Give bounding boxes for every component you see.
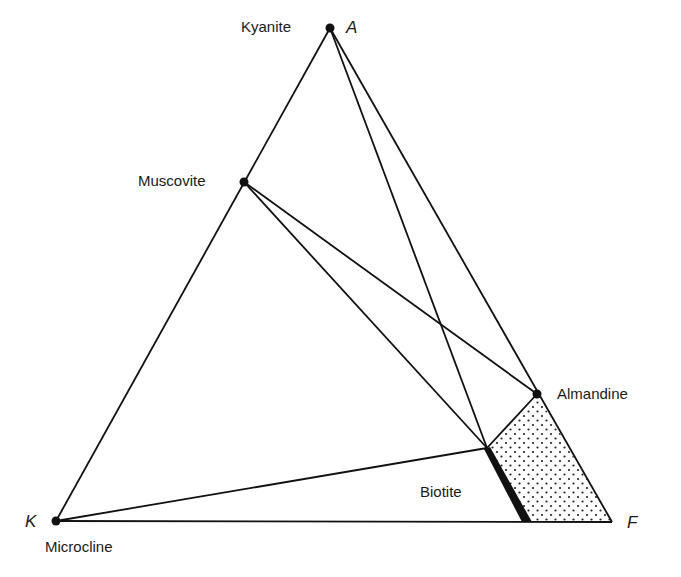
microcline-label: Microcline <box>45 538 113 555</box>
kyanite-label: Kyanite <box>241 18 291 35</box>
microcline-point <box>52 517 61 526</box>
corner-k-label: K <box>25 512 37 531</box>
almandine-label: Almandine <box>557 385 628 402</box>
tie-kyanite-biotite <box>330 28 487 448</box>
kyanite-point <box>326 24 335 33</box>
muscovite-point <box>240 178 249 187</box>
corner-f-label: F <box>627 513 639 532</box>
edge-a-k <box>56 28 330 521</box>
muscovite-label: Muscovite <box>138 172 206 189</box>
biotite-label: Biotite <box>420 483 462 500</box>
tie-muscovite-almandine <box>244 182 537 394</box>
akf-diagram: Kyanite A Muscovite Almandine Biotite K … <box>0 0 681 577</box>
almandine-point <box>533 390 542 399</box>
tie-muscovite-biotite <box>244 182 487 448</box>
corner-a-label: A <box>345 18 357 37</box>
